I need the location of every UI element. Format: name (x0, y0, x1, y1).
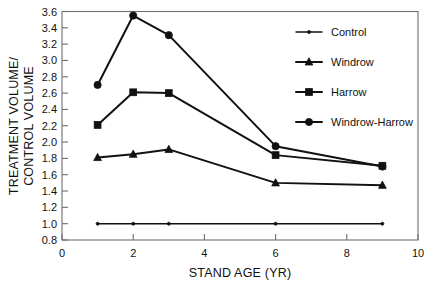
square-marker (306, 89, 313, 96)
chart-legend: ControlWindrowHarrowWindrow-Harrow (296, 26, 413, 128)
x-tick-label: 2 (130, 247, 136, 259)
y-tick-label: 2.8 (42, 71, 57, 83)
square-marker (272, 152, 279, 159)
legend-label: Control (331, 26, 366, 38)
y-tick-label: 2.0 (42, 136, 57, 148)
series-polyline (98, 92, 383, 165)
x-tick-label: 0 (59, 247, 65, 259)
y-tick-label: 2.2 (42, 120, 57, 132)
x-axis-ticks: 0246810 (59, 234, 424, 259)
circle-marker (165, 32, 172, 39)
y-tick-label: 2.6 (42, 87, 57, 99)
y-tick-label: 3.4 (42, 22, 57, 34)
legend-item-harrow[interactable]: Harrow (296, 86, 367, 98)
y-tick-label: 1.2 (42, 201, 57, 213)
legend-label: Windrow (331, 56, 374, 68)
square-marker (94, 122, 101, 129)
y-axis-title-line1: TREATMENT VOLUME/ (7, 56, 21, 195)
x-axis-title: STAND AGE (YR) (189, 266, 292, 280)
circle-marker (130, 12, 137, 19)
y-tick-label: 1.8 (42, 152, 57, 164)
square-marker (165, 90, 172, 97)
dot-marker (274, 222, 277, 225)
line-chart: 0.81.01.21.41.61.82.02.22.42.62.83.03.23… (0, 0, 434, 283)
chart-figure: 0.81.01.21.41.61.82.02.22.42.62.83.03.23… (0, 0, 434, 283)
square-marker (130, 89, 137, 96)
x-tick-label: 10 (412, 247, 424, 259)
series-harrow (94, 89, 386, 169)
y-tick-label: 3.2 (42, 38, 57, 50)
legend-item-control[interactable]: Control (296, 26, 366, 38)
y-axis-ticks: 0.81.01.21.41.61.82.02.22.42.62.83.03.23… (42, 6, 68, 247)
circle-marker (379, 163, 386, 170)
series-windrow (94, 145, 387, 188)
x-tick-label: 8 (344, 247, 350, 259)
x-tick-label: 6 (273, 247, 279, 259)
circle-marker (94, 81, 101, 88)
dot-marker (167, 222, 170, 225)
circle-marker (305, 118, 312, 125)
legend-item-windrow-harrow[interactable]: Windrow-Harrow (296, 116, 413, 128)
y-axis-title-line2: CONTROL VOLUME (22, 66, 36, 186)
dot-marker (96, 222, 99, 225)
series-polyline (98, 149, 383, 185)
circle-marker (272, 143, 279, 150)
dot-marker (381, 222, 384, 225)
legend-item-windrow[interactable]: Windrow (296, 56, 374, 68)
legend-label: Harrow (331, 86, 367, 98)
y-tick-label: 3.0 (42, 54, 57, 66)
y-tick-label: 1.6 (42, 169, 57, 181)
y-tick-label: 0.8 (42, 234, 57, 246)
y-tick-label: 1.4 (42, 185, 57, 197)
y-tick-label: 1.0 (42, 218, 57, 230)
x-tick-label: 4 (201, 247, 207, 259)
y-tick-label: 3.6 (42, 6, 57, 18)
y-tick-label: 2.4 (42, 103, 57, 115)
series-control (96, 222, 384, 225)
dot-marker (308, 31, 311, 34)
legend-label: Windrow-Harrow (331, 116, 413, 128)
dot-marker (132, 222, 135, 225)
